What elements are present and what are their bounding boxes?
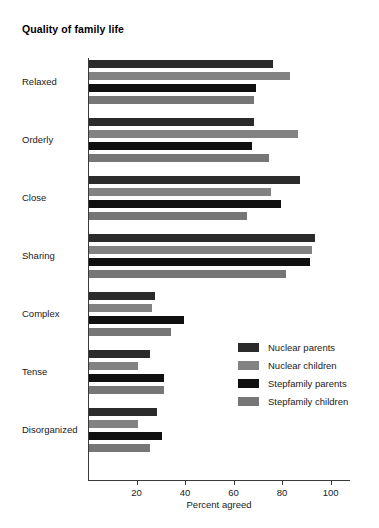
bar — [89, 316, 184, 324]
legend-label: Nuclear children — [268, 360, 337, 371]
x-tick-mark — [282, 481, 283, 485]
bar — [89, 142, 252, 150]
bar — [89, 328, 171, 336]
x-tick-mark — [185, 481, 186, 485]
bar — [89, 176, 300, 184]
bar — [89, 374, 164, 382]
bar — [89, 350, 150, 358]
legend-swatch — [238, 379, 259, 388]
x-tick-mark — [137, 481, 138, 485]
x-tick-label: 80 — [277, 487, 288, 498]
category-label: Close — [22, 192, 46, 203]
legend-label: Stepfamily children — [268, 396, 348, 407]
bar — [89, 154, 269, 162]
category-label: Orderly — [22, 134, 53, 145]
x-axis-line — [88, 480, 350, 481]
bar — [89, 212, 247, 220]
bar — [89, 292, 155, 300]
bar — [89, 258, 310, 266]
bar — [89, 408, 157, 416]
bar — [89, 188, 271, 196]
category-label: Relaxed — [22, 76, 57, 87]
bar — [89, 200, 281, 208]
x-tick-label: 40 — [180, 487, 191, 498]
x-tick-label: 60 — [228, 487, 239, 498]
legend-label: Nuclear parents — [268, 342, 335, 353]
bar — [89, 304, 152, 312]
legend-item: Nuclear children — [238, 356, 378, 374]
bar — [89, 270, 286, 278]
bar — [89, 432, 162, 440]
bar — [89, 118, 254, 126]
chart-legend: Nuclear parentsNuclear childrenStepfamil… — [238, 338, 378, 410]
bar — [89, 386, 164, 394]
legend-swatch — [238, 361, 259, 370]
plot-area: 20406080100 — [88, 58, 350, 480]
legend-swatch — [238, 343, 259, 352]
x-tick-label: 20 — [131, 487, 142, 498]
bar — [89, 420, 138, 428]
category-label: Tense — [22, 366, 47, 377]
bar — [89, 246, 312, 254]
category-label: Complex — [22, 308, 60, 319]
category-label: Disorganized — [22, 424, 77, 435]
x-tick-label: 100 — [323, 487, 339, 498]
bar — [89, 362, 138, 370]
bar — [89, 60, 273, 68]
bar — [89, 84, 256, 92]
category-label: Sharing — [22, 250, 55, 261]
x-tick-mark — [234, 481, 235, 485]
chart-container: Quality of family life 20406080100 Relax… — [0, 0, 379, 528]
legend-item: Nuclear parents — [238, 338, 378, 356]
legend-swatch — [238, 397, 259, 406]
legend-item: Stepfamily parents — [238, 374, 378, 392]
chart-title: Quality of family life — [22, 23, 124, 35]
bar — [89, 72, 290, 80]
legend-label: Stepfamily parents — [268, 378, 347, 389]
bar — [89, 234, 315, 242]
bar — [89, 444, 150, 452]
bar — [89, 96, 254, 104]
bar — [89, 130, 298, 138]
x-axis-title: Percent agreed — [88, 499, 350, 510]
x-tick-mark — [331, 481, 332, 485]
legend-item: Stepfamily children — [238, 392, 378, 410]
